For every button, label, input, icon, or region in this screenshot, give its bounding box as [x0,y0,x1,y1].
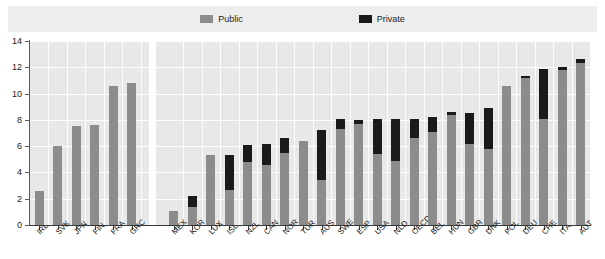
bar-segment-public [558,70,567,225]
bar-segment-public [373,154,382,225]
bar-segment-private [280,138,289,152]
bar-segment-public [243,162,252,225]
bar-segment-private [225,155,234,189]
bar-segment-private [410,119,419,139]
bar-bel [428,117,437,225]
bar-lux [206,155,215,225]
bar-segment-public [127,83,136,225]
bar-ita [558,67,567,225]
vertical-gridline [479,41,480,225]
bar-swe [336,119,345,225]
bar-segment-public [447,115,456,225]
vertical-gridline [516,41,517,225]
vertical-gridline [141,41,142,225]
gridline [30,67,590,68]
legend-item-public: Public [200,14,243,24]
bar-deu [521,76,530,225]
bar-isl [225,155,234,225]
square-swatch-icon [200,15,213,23]
vertical-gridline [294,41,295,225]
bar-segment-private [447,112,456,115]
bar-segment-private [373,119,382,154]
vertical-gridline [239,41,240,225]
y-axis-tick-label: 0 [2,221,22,230]
bar-segment-public [188,207,197,225]
vertical-gridline [104,41,105,225]
bar-che [539,69,548,225]
bar-segment-private [576,59,585,63]
bar-usa [373,119,382,225]
bar-segment-public [484,149,493,225]
vertical-gridline [202,41,203,225]
vertical-gridline [590,41,591,225]
bar-segment-public [539,119,548,225]
y-axis-tick-label: 8 [2,116,22,125]
vertical-gridline [67,41,68,225]
y-axis-tick-label: 12 [2,63,22,72]
bar-segment-public [35,191,44,225]
bar-can [262,144,271,225]
y-axis-tick [25,225,29,226]
y-axis-tick-label: 6 [2,142,22,151]
bar-esp [354,120,363,225]
bar-fra [109,86,118,225]
bar-segment-public [280,153,289,225]
bar-segment-public [428,132,437,225]
bar-segment-private [262,144,271,165]
legend-label-public: Public [218,14,243,24]
bar-svk [53,146,62,225]
vertical-gridline [461,41,462,225]
bar-segment-private [521,76,530,77]
bar-hun [447,112,456,225]
vertical-gridline [276,41,277,225]
bar-pol [502,86,511,225]
bar-nld [391,119,400,225]
vertical-gridline [183,41,184,225]
bar-segment-public [206,155,215,225]
chart-legend: Public Private [8,6,597,32]
vertical-gridline [48,41,49,225]
vertical-gridline [553,41,554,225]
vertical-gridline [442,41,443,225]
bar-segment-public [317,180,326,225]
vertical-gridline [220,41,221,225]
bar-tur [299,141,308,225]
y-axis-tick-label: 4 [2,168,22,177]
y-axis-tick [25,41,29,42]
y-axis-tick-label: 2 [2,195,22,204]
vertical-gridline [350,41,351,225]
bar-kor [188,196,197,225]
bar-irl [35,191,44,225]
vertical-gridline [424,41,425,225]
bar-segment-private [354,120,363,124]
y-axis-tick-label: 14 [2,37,22,46]
bar-segment-public [109,86,118,225]
bar-segment-private [317,130,326,180]
bar-aus [317,130,326,225]
y-axis-tick [25,199,29,200]
vertical-gridline [85,41,86,225]
bar-segment-public [299,141,308,225]
panel-separator [149,41,156,225]
bar-segment-public [336,129,345,225]
bar-segment-public [502,86,511,225]
bar-segment-public [465,144,474,225]
y-axis-tick [25,120,29,121]
vertical-gridline [498,41,499,225]
bar-gbr [465,113,474,225]
bar-segment-public [576,63,585,225]
bar-jpn [72,126,81,225]
bar-segment-public [354,124,363,225]
bar-segment-private [465,113,474,143]
vertical-gridline [387,41,388,225]
legend-item-private: Private [359,14,405,24]
bar-dnk [484,108,493,225]
bar-segment-public [225,190,234,225]
y-axis-tick-label: 10 [2,90,22,99]
bar-segment-public [72,126,81,225]
y-axis-line [29,40,30,226]
vertical-gridline [122,41,123,225]
vertical-gridline [572,41,573,225]
y-axis-tick [25,146,29,147]
vertical-gridline [313,41,314,225]
